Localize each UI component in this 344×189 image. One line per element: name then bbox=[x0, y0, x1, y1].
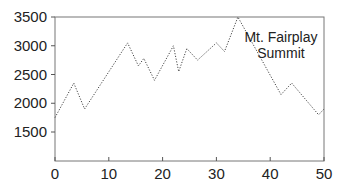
y-tick-label: 3500 bbox=[14, 8, 47, 25]
elevation-line-chart: 1500200025003000350001020304050 Mt. Fair… bbox=[0, 0, 344, 189]
y-tick-label: 2500 bbox=[14, 66, 47, 83]
x-tick-label: 10 bbox=[100, 165, 117, 182]
x-tick-label: 40 bbox=[262, 165, 279, 182]
y-tick-label: 3000 bbox=[14, 37, 47, 54]
y-tick-label: 2000 bbox=[14, 94, 47, 111]
x-tick-label: 20 bbox=[154, 165, 171, 182]
y-tick-label: 1500 bbox=[14, 123, 47, 140]
annotation-text: Mt. Fairplay bbox=[244, 29, 317, 45]
x-tick-label: 50 bbox=[316, 165, 333, 182]
x-tick-label: 30 bbox=[208, 165, 225, 182]
summit-annotation: Mt. FairplaySummit bbox=[244, 29, 317, 61]
annotation-text: Summit bbox=[257, 45, 305, 61]
x-tick-label: 0 bbox=[51, 165, 59, 182]
